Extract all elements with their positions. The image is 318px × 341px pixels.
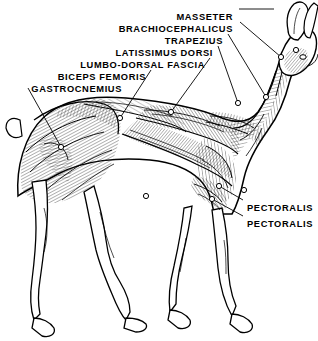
- hind-legs: [31, 180, 147, 337]
- marker-trapezius: [263, 94, 268, 99]
- marker-latissimus-dorsi: [235, 100, 240, 105]
- anatomical-plate: MASSETERBRACHIOCEPHALICUSTRAPEZIUSLATISS…: [0, 0, 318, 341]
- marker-flank: [143, 193, 148, 198]
- marker-gastrocnemius: [58, 144, 63, 149]
- marker-biceps-femoris: [117, 115, 122, 120]
- marker-masseter-head: [293, 47, 298, 52]
- label-latissimus-dorsi: LATISSIMUS DORSI: [115, 48, 213, 59]
- label-brachiocephalicus: BRACHIOCEPHALICUS: [119, 24, 233, 35]
- trapezius-leader: [228, 34, 266, 97]
- marker-brachiocephalicus: [278, 54, 283, 59]
- label-biceps-femoris: BICEPS FEMORIS: [58, 72, 146, 83]
- label-pectoralis-1: PECTORALIS: [247, 203, 313, 214]
- marker-lumbo-dorsal-fascia: [168, 109, 173, 114]
- label-gastrocnemius: GASTROCNEMIUS: [31, 84, 122, 95]
- tail: [6, 118, 22, 137]
- marker-pectoralis-upper: [216, 183, 221, 188]
- label-trapezius: TRAPEZIUS: [165, 36, 223, 47]
- label-pectoralis-2: PECTORALIS: [247, 219, 313, 230]
- marker-shoulder: [241, 187, 246, 192]
- marker-pectoralis-lower: [209, 196, 214, 201]
- brachiocephalicus-leader: [240, 22, 281, 57]
- fore-legs: [168, 206, 252, 333]
- latissimus-dorsi-leader: [218, 46, 238, 103]
- label-masseter: MASSETER: [176, 12, 233, 23]
- label-lumbo-dorsal-fascia: LUMBO-DORSAL FASCIA: [80, 60, 205, 71]
